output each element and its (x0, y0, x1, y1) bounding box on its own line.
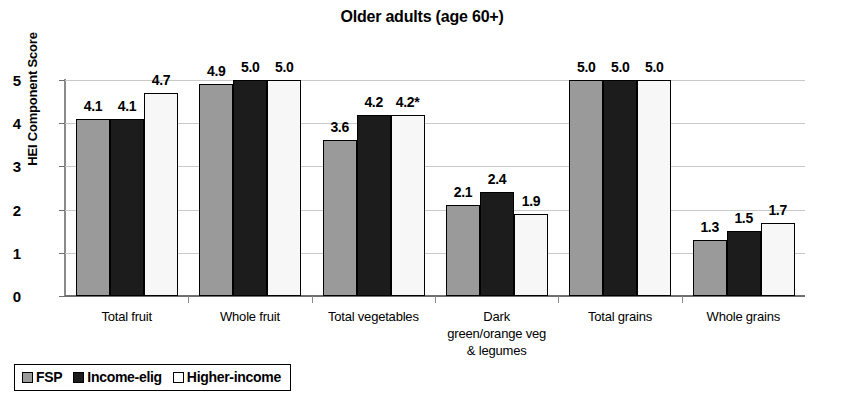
x-axis-category-label-line: & legumes (435, 342, 558, 359)
legend-swatch-icon (73, 372, 84, 383)
x-axis-category-label: Total grains (558, 308, 681, 325)
y-axis-tick-mark (59, 296, 65, 297)
x-axis-tick-mark (682, 296, 683, 303)
x-axis-category-label: Whole fruit (188, 308, 311, 325)
x-axis-category-label-line: Whole grains (682, 308, 805, 325)
bar-chart: Older adults (age 60+) HEI Component Sco… (0, 0, 844, 417)
bar-value-label: 5.0 (629, 60, 679, 74)
legend-label: Higher-income (187, 369, 281, 385)
x-axis-tick-mark (435, 296, 436, 303)
bar (446, 205, 480, 296)
bar (480, 192, 514, 296)
x-axis-category-label: Total fruit (65, 308, 188, 325)
x-axis-category-label: Total vegetables (312, 308, 435, 325)
bar (233, 80, 267, 296)
bar (199, 84, 233, 296)
y-axis-tick-mark (59, 210, 65, 211)
y-axis-tick-label: 4 (0, 116, 21, 131)
bar (727, 231, 761, 296)
y-axis-tick-label: 0 (0, 289, 21, 304)
bar (357, 115, 391, 296)
x-axis-category-label-line: green/orange veg (435, 325, 558, 342)
y-axis-tick-mark (59, 166, 65, 167)
y-axis-tick-mark (59, 253, 65, 254)
plot-area: 012345 4.14.14.74.95.05.03.64.24.2*2.12.… (65, 80, 805, 296)
bar-value-label: 4.7 (136, 73, 186, 87)
bar (693, 240, 727, 296)
bar (267, 80, 301, 296)
x-axis-tick-mark (188, 296, 189, 303)
x-axis-tick-mark (558, 296, 559, 303)
y-axis-tick-label: 3 (0, 159, 21, 174)
bar (761, 223, 795, 296)
legend-label: FSP (36, 369, 62, 385)
x-axis-category-label: Darkgreen/orange veg& legumes (435, 308, 558, 359)
x-axis-category-label-line: Total grains (558, 308, 681, 325)
legend-item[interactable]: FSP (22, 369, 62, 385)
bar (603, 80, 637, 296)
bar-value-label: 2.4 (472, 172, 522, 186)
bar-value-label: 5.0 (259, 60, 309, 74)
legend-swatch-icon (173, 372, 184, 383)
x-axis-category-label-line: Total fruit (65, 308, 188, 325)
x-axis-category-label-line: Total vegetables (312, 308, 435, 325)
bar (637, 80, 671, 296)
legend-swatch-icon (22, 372, 33, 383)
bar (323, 140, 357, 296)
bar (569, 80, 603, 296)
y-axis-tick-mark (59, 80, 65, 81)
y-axis-line (64, 79, 66, 296)
y-axis-tick-label: 5 (0, 73, 21, 88)
x-axis-category-label-line: Dark (435, 308, 558, 325)
y-axis-tick-label: 1 (0, 246, 21, 261)
bar (514, 214, 548, 296)
bar (391, 115, 425, 296)
chart-title: Older adults (age 60+) (0, 8, 844, 26)
legend-item[interactable]: Income-elig (73, 369, 162, 385)
x-axis-category-label: Whole grains (682, 308, 805, 325)
bar-value-label: 1.7 (753, 203, 803, 217)
legend-label: Income-elig (87, 369, 162, 385)
bar (110, 119, 144, 296)
bar-value-label: 4.2* (383, 95, 433, 109)
y-axis-title: HEI Component Score (22, 0, 44, 204)
y-axis-tick-mark (59, 123, 65, 124)
y-axis-tick-label: 2 (0, 203, 21, 218)
bar (76, 119, 110, 296)
x-axis-category-label-line: Whole fruit (188, 308, 311, 325)
chart-legend: FSPIncome-eligHigher-income (14, 364, 291, 391)
bar (144, 93, 178, 296)
legend-item[interactable]: Higher-income (173, 369, 281, 385)
x-axis-tick-mark (312, 296, 313, 303)
